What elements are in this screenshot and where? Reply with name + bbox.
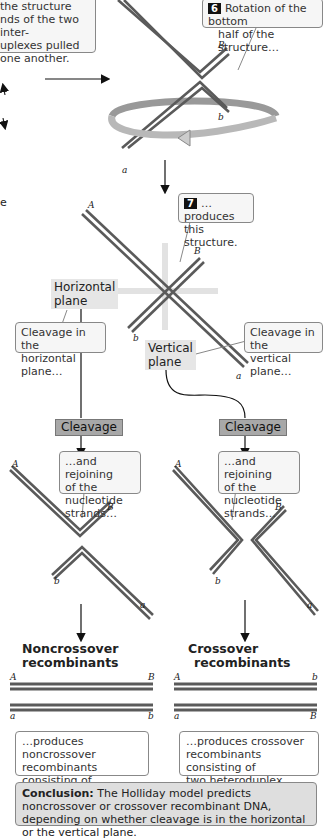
cross-result-callout: …produces crossover recombinants consist… [179, 731, 319, 776]
plane-text: plane [148, 355, 193, 369]
label-B: B [310, 711, 317, 721]
label-b: b [133, 333, 139, 343]
callout-step5: the structure nds of the two inter- uple… [0, 0, 96, 53]
callout-text: strands… [65, 507, 135, 520]
vertical-plane-label: Vertical plane [145, 340, 196, 370]
noncross-heading: Noncrossover recombinants [22, 642, 104, 670]
heading-text: recombinants [22, 656, 104, 670]
label-b: b [312, 672, 318, 682]
label-a: a [236, 371, 241, 381]
left-edge-text: e [0, 196, 7, 209]
label-a: a [307, 600, 312, 610]
label-B: B [218, 40, 225, 50]
callout-text: of the nucleotide [224, 481, 294, 507]
step-6-badge: 6 [208, 3, 221, 14]
label-b: b [218, 112, 224, 122]
rejoin-callout-right: …and rejoining of the nucleotide strands… [218, 451, 300, 494]
result-text: recombinants consisting of [186, 748, 312, 774]
label-B: B [275, 502, 282, 512]
right-connector [166, 370, 245, 418]
label-B: B [107, 502, 114, 512]
conclusion-label: Conclusion: [22, 787, 94, 800]
callout-line: uplexes pulled [0, 39, 90, 52]
label-A: A [175, 459, 182, 469]
step-7-badge: 7 [184, 198, 197, 209]
rotation-ring-front [112, 116, 276, 135]
callout-text: horizontal plane… [21, 352, 100, 378]
label-A: A [10, 672, 17, 682]
callout-text: strands… [224, 507, 294, 520]
result-text: …produces crossover [186, 735, 312, 748]
callout-text: vertical plane… [250, 352, 317, 378]
cleavage-box-left: Cleavage [55, 419, 123, 436]
step6-text: Rotation of the bottom [208, 2, 307, 28]
label-A: A [88, 200, 95, 210]
label-b: b [215, 576, 221, 586]
label-a: a [140, 600, 145, 610]
heading-text: Crossover [188, 642, 278, 656]
callout-text: …and rejoining [65, 455, 135, 481]
callout-step7: 7…produces this structure. [178, 193, 254, 223]
vertical-cleavage-callout: Cleavage in the vertical plane… [244, 322, 323, 353]
label-a: a [174, 711, 179, 721]
cleavage-box-right: Cleavage [219, 419, 287, 436]
plane-guides [108, 243, 218, 330]
plane-text: Horizontal [54, 280, 115, 294]
label-A: A [12, 459, 19, 469]
result-strands [10, 684, 317, 710]
callout-text: of the nucleotide [65, 481, 135, 507]
label-A: A [174, 672, 181, 682]
label-b: b [148, 711, 154, 721]
noncross-result-callout: …produces noncrossover recombinants cons… [15, 731, 149, 776]
heading-text: Noncrossover [22, 642, 104, 656]
horizontal-plane-label: Horizontal plane [51, 279, 118, 309]
label-B: B [148, 672, 155, 682]
callout-text: Cleavage in the [250, 326, 317, 352]
pull-arrows [3, 85, 5, 128]
conclusion-box: Conclusion: The Holliday model predicts … [15, 782, 317, 826]
label-a: a [122, 165, 127, 175]
callout-line: the structure [0, 0, 90, 13]
cross-heading: Crossover recombinants [188, 642, 278, 670]
plane-text: Vertical [148, 341, 193, 355]
callout-line: nds of the two inter- [0, 13, 90, 39]
label-B: B [194, 246, 201, 256]
rotation-ring-back [112, 101, 276, 116]
label-b: b [54, 576, 60, 586]
label-a: a [10, 711, 15, 721]
rejoin-callout-left: …and rejoining of the nucleotide strands… [59, 451, 141, 494]
callout-line: one another. [0, 52, 90, 65]
callout-step6: 6Rotation of the bottom half of the stru… [202, 0, 323, 28]
heading-text: recombinants [188, 656, 278, 670]
horizontal-cleavage-callout: Cleavage in the horizontal plane… [15, 322, 106, 353]
plane-text: plane [54, 294, 115, 308]
result-text: …produces noncrossover [22, 735, 142, 761]
callout-text: …and rejoining [224, 455, 294, 481]
callout-text: Cleavage in the [21, 326, 100, 352]
